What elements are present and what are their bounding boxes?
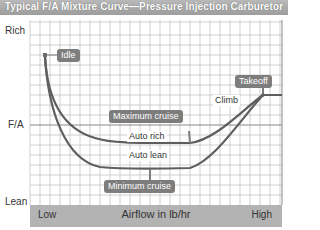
annotation-takeoff: Takeoff [235,75,272,88]
annotation-idle: Idle [57,49,80,62]
x-axis-bar: Low Airflow in lb/hr High [30,205,282,227]
label-auto-lean: Auto lean [127,150,169,161]
curve-auto-rich [45,56,282,143]
label-auto-rich: Auto rich [127,131,167,142]
annotation-minimum-cruise: Minimum cruise [104,180,175,193]
idle-point [43,53,47,57]
x-label-high: High [251,209,272,220]
annotation-maximum-cruise: Maximum cruise [109,110,183,123]
x-axis-title: Airflow in lb/hr [30,208,282,220]
label-climb: Climb [213,95,240,106]
